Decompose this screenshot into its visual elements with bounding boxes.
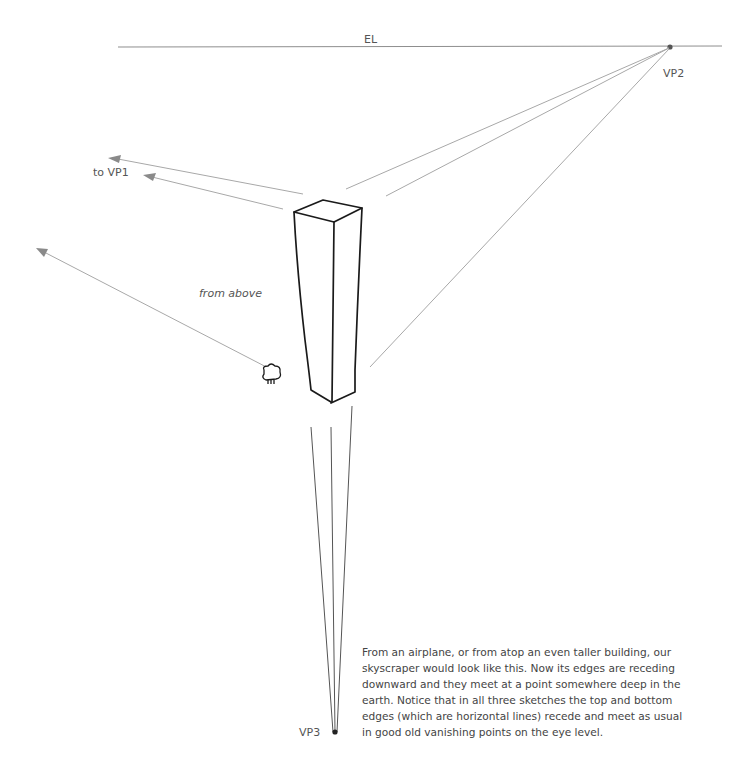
caption-line: edges (which are horizontal lines) reced… [362,708,702,724]
arrow-icon [36,248,48,257]
vp3-label: VP3 [299,726,320,739]
eye-level-line [118,46,722,47]
caption-line: earth. Notice that in all three sketches… [362,692,702,708]
caption-line: skyscraper would look like this. Now its… [362,660,702,676]
from-above-label: from above [199,287,262,300]
tree-icon [263,364,281,384]
vp3-construction-lines [311,406,352,732]
vp2-label: VP2 [663,67,684,80]
arrow-icon [143,173,156,181]
caption-text: From an airplane, or from atop an even t… [362,644,702,740]
skyscraper [294,200,362,403]
vp2-construction-lines [346,48,669,367]
eye-level-label: EL [364,33,377,46]
arrow-icon [108,155,121,163]
caption-line: From an airplane, or from atop an even t… [362,644,702,660]
to-vp1-label: to VP1 [93,166,129,179]
vp3-point [332,729,337,734]
caption-line: downward and they meet at a point somewh… [362,676,702,692]
vp1-construction-lines [44,159,303,372]
caption-line: in good old vanishing points on the eye … [362,724,702,740]
